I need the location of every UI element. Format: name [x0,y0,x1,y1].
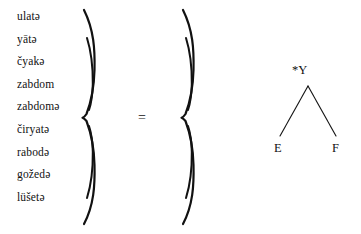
tree-diagram: *Y E F [258,62,358,167]
tree-branch-lines [258,62,358,167]
figure-canvas: ulatə yātə čyakə zabdom zabdomə čiryatə … [0,0,361,234]
tree-leaf-label-right: F [332,140,339,156]
equals-sign: = [131,107,153,129]
curly-brace-left [78,8,112,226]
curly-brace-right [177,8,211,226]
tree-leaf-label-left: E [274,140,282,156]
